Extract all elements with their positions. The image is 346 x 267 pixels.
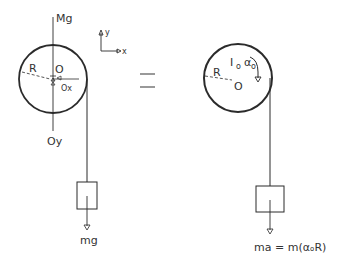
pulley-diagram: Mg R O Ox Oy mg y x R O I o α o ma = m(α… — [0, 0, 346, 267]
free-body-diagram — [19, 17, 97, 230]
label-x-axis: x — [122, 47, 127, 56]
label-inertia-I: I — [230, 56, 233, 69]
label-Ox: Ox — [61, 84, 72, 93]
label-equation: ma = m(αₒR) — [254, 241, 326, 254]
label-Mg: Mg — [56, 12, 72, 25]
label-alpha-sub: o — [251, 62, 256, 71]
equals-sign — [140, 74, 155, 87]
label-mg: mg — [80, 234, 98, 247]
label-R-right: R — [213, 66, 221, 79]
coordinate-axes — [99, 30, 121, 53]
label-inertia-sub: o — [236, 62, 241, 71]
label-y-axis: y — [105, 28, 110, 37]
label-O-right: O — [234, 80, 243, 93]
label-R-left: R — [29, 62, 37, 75]
label-Oy: Oy — [47, 135, 63, 148]
label-O-left: O — [55, 63, 64, 76]
